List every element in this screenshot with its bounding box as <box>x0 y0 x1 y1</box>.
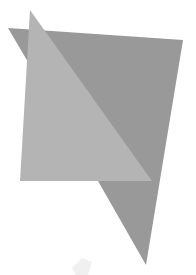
shapes-svg <box>0 0 196 275</box>
watermark-shape <box>72 258 92 275</box>
figure-canvas: Two overlapping flat gray geometric shap… <box>0 0 196 275</box>
